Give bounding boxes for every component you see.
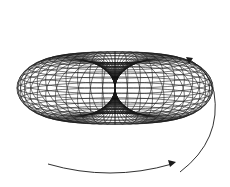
bottom-arrow — [48, 164, 172, 173]
torus-diagram — [0, 0, 230, 187]
torus-wireframe — [0, 0, 230, 187]
mesh-line — [112, 77, 118, 78]
bottom-arrowhead-icon — [168, 160, 176, 167]
mesh-line — [112, 98, 118, 99]
